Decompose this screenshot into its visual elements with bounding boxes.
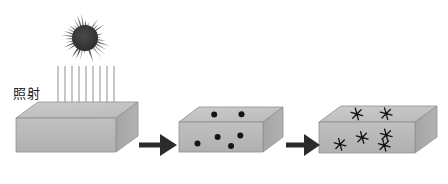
defect-dot <box>194 141 200 147</box>
irradiation-process-figure: 照射 <box>0 0 448 184</box>
process-arrow-2 <box>286 134 320 156</box>
defect-dot <box>228 143 234 149</box>
irradiation-label: 照射 <box>13 86 40 102</box>
untreated-sample-block <box>16 102 138 152</box>
block-front-face <box>319 122 415 153</box>
block-front-face <box>179 122 263 152</box>
defect-star-core <box>361 136 364 139</box>
defect-star-core <box>383 144 386 147</box>
defect-star-core <box>339 143 342 146</box>
defect-star-core <box>385 112 388 115</box>
defect-dot <box>215 134 221 140</box>
defect-dot <box>238 111 244 117</box>
sun-core <box>72 25 98 51</box>
block-front-face <box>16 118 116 152</box>
process-arrow-1 <box>139 134 177 156</box>
sample-blocks-group <box>16 102 437 153</box>
starred-sample-block <box>319 106 437 153</box>
defect-star-core <box>356 113 359 116</box>
dotted-sample-block <box>179 107 283 152</box>
sunburst-icon <box>61 13 109 62</box>
defect-dot <box>211 112 217 118</box>
defect-dot <box>237 133 243 139</box>
figure-canvas <box>0 0 448 184</box>
defect-star-core <box>385 134 388 137</box>
